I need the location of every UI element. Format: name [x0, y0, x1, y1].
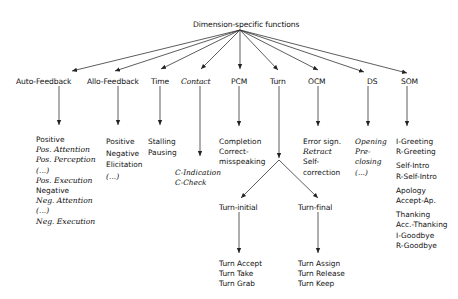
function-item: Turn Assign: [298, 259, 345, 269]
edge-root-som: [240, 30, 407, 73]
function-item: Pre-: [355, 147, 387, 157]
function-item: Turn Grab: [219, 279, 262, 289]
edge-root-contact: [201, 30, 240, 69]
function-item: Opening: [355, 137, 387, 147]
function-item: C-Check: [175, 178, 221, 188]
pcm-functions: Completion Correct- misspeaking: [219, 137, 265, 168]
function-item: Negative: [36, 186, 96, 196]
turn-final-functions: Turn Assign Turn Release Turn Keep: [298, 259, 345, 290]
function-item: Pausing: [148, 147, 177, 158]
som-functions: I-Greeting R-Greeting Self-Intro R-Self-…: [396, 137, 448, 251]
dimension-ds: DS: [367, 77, 377, 87]
dimension-pcm: PCM: [231, 77, 247, 87]
function-item: Apology: [396, 186, 448, 196]
function-item: (...): [106, 171, 142, 183]
function-item: Acc.-Thanking: [396, 220, 448, 230]
function-item: Stalling: [148, 136, 177, 147]
edge-root-ocm: [240, 30, 318, 70]
edge-root-auto-feedback: [72, 30, 240, 71]
edge-root-ds: [240, 30, 364, 72]
function-item: closing: [355, 157, 387, 167]
function-item: Pos. Execution: [36, 176, 96, 186]
function-item: (...): [36, 166, 96, 176]
edge-root-time: [161, 30, 240, 69]
function-item: Error sign.: [303, 137, 341, 147]
dimension-contact: Contact: [181, 77, 210, 87]
edge-root-allo-feedback: [115, 30, 240, 71]
function-item: Positive: [106, 136, 142, 148]
contact-functions: C-Indication C-Check: [175, 168, 221, 188]
function-item: Negative: [106, 148, 142, 160]
turn-final-node: Turn-final: [298, 203, 332, 213]
function-item: (...): [36, 206, 96, 216]
function-item: correction: [303, 168, 341, 178]
ocm-functions: Error sign. Retract Self- correction: [303, 137, 341, 178]
function-item: Neg. Execution: [36, 217, 96, 227]
dimension-turn: Turn: [270, 77, 286, 87]
function-item: Pos. Attention: [36, 145, 96, 155]
function-item: (...): [355, 168, 387, 178]
function-item: R-Goodbye: [396, 241, 448, 251]
time-functions: Stalling Pausing: [148, 136, 177, 158]
function-item: Retract: [303, 147, 341, 157]
function-item: R-Greeting: [396, 147, 448, 157]
function-item: Elicitation: [106, 159, 142, 171]
turn-initial-functions: Turn Accept Turn Take Turn Grab: [219, 259, 262, 290]
function-item: misspeaking: [219, 157, 265, 167]
function-item: Turn Take: [219, 269, 262, 279]
function-item: Turn Release: [298, 269, 345, 279]
allo-feedback-functions: Positive Negative Elicitation (...): [106, 136, 142, 182]
turn-initial-node: Turn-initial: [219, 203, 258, 213]
root-node: Dimension-specific functions: [193, 20, 299, 30]
function-item: Neg. Attention: [36, 196, 96, 206]
function-item: Completion: [219, 137, 265, 147]
function-item: I-Goodbye: [396, 231, 448, 241]
edge-root-turn: [240, 30, 278, 70]
function-item: Pos. Perception: [36, 155, 96, 165]
dimension-som: SOM: [401, 77, 418, 87]
ds-functions: Opening Pre- closing (...): [355, 137, 387, 178]
dimension-allo-feedback: Allo-Feedback: [87, 77, 139, 87]
function-item: Turn Accept: [219, 259, 262, 269]
function-item: R-Self-Intro: [396, 172, 448, 182]
function-item: Thanking: [396, 210, 448, 220]
dimension-auto-feedback: Auto-Feedback: [16, 77, 71, 87]
function-item: Self-: [303, 157, 341, 167]
function-item: Turn Keep: [298, 279, 345, 289]
function-item: Self-Intro: [396, 161, 448, 171]
auto-feedback-functions: Positive Pos. Attention Pos. Perception …: [36, 135, 96, 227]
dimension-ocm: OCM: [308, 77, 326, 87]
function-item: Positive: [36, 135, 96, 145]
function-item: C-Indication: [175, 168, 221, 178]
function-item: Accept-Ap.: [396, 196, 448, 206]
function-item: I-Greeting: [396, 137, 448, 147]
function-item: Correct-: [219, 147, 265, 157]
dimension-time: Time: [151, 77, 169, 87]
